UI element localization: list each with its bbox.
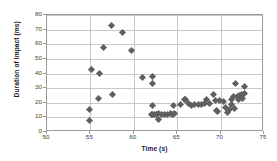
y-tickmark-60 [43, 43, 46, 44]
y-tick-label-70: 70 [26, 26, 42, 32]
data-point [148, 102, 155, 109]
data-point [232, 80, 239, 87]
data-point [100, 44, 107, 51]
y-tick-label-60: 60 [26, 40, 42, 46]
data-point [96, 70, 103, 77]
y-tick-label-10: 10 [26, 113, 42, 119]
y-tick-label-50: 50 [26, 55, 42, 61]
data-point [149, 80, 156, 87]
gridline-y-70 [47, 30, 262, 31]
gridline-y-30 [47, 88, 262, 89]
plot-area [46, 14, 263, 131]
y-axis-title: Duration of Impact (ms) [14, 4, 21, 114]
y-axis-tick-labels: 01020304050607080 [26, 14, 42, 131]
gridline-y-60 [47, 44, 262, 45]
gridline-y-80 [47, 15, 262, 16]
y-tickmark-40 [43, 73, 46, 74]
gridline-y-50 [47, 59, 262, 60]
x-tick-label-55: 55 [86, 134, 93, 140]
y-tickmark-30 [43, 87, 46, 88]
x-tick-label-60: 60 [129, 134, 136, 140]
data-point [86, 106, 93, 113]
x-tick-label-75: 75 [259, 134, 266, 140]
data-point [214, 108, 221, 115]
y-tickmark-50 [43, 58, 46, 59]
data-point [109, 91, 116, 98]
y-tick-label-80: 80 [26, 11, 42, 17]
scatter-chart: Duration of Impact (ms) 0102030405060708… [0, 0, 277, 161]
y-tickmark-20 [43, 102, 46, 103]
data-point [231, 105, 238, 112]
y-tickmark-10 [43, 116, 46, 117]
y-tick-label-30: 30 [26, 84, 42, 90]
x-tick-label-65: 65 [173, 134, 180, 140]
x-tick-label-70: 70 [216, 134, 223, 140]
y-tick-label-40: 40 [26, 69, 42, 75]
gridline-x-70 [221, 15, 222, 130]
gridline-x-60 [134, 15, 135, 130]
x-tick-label-50: 50 [42, 134, 49, 140]
x-axis-tick-labels: 505560657075 [46, 134, 263, 144]
y-tickmark-0 [43, 131, 46, 132]
data-point [95, 95, 102, 102]
x-axis-title: Time (s) [46, 146, 263, 153]
y-tickmark-70 [43, 29, 46, 30]
data-point [88, 66, 95, 73]
data-point [108, 22, 115, 29]
y-tick-label-0: 0 [26, 128, 42, 134]
data-point [139, 74, 146, 81]
y-tick-label-20: 20 [26, 99, 42, 105]
y-tickmark-80 [43, 14, 46, 15]
